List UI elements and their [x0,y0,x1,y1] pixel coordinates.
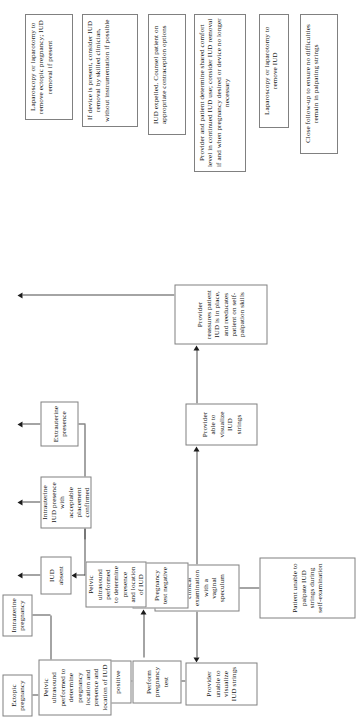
edge-reassures-to-followup [22,294,174,295]
node-label: Laparoscopy or laparotomy to remove ecto… [29,18,69,116]
node-label: Ectopic pregnancy [9,678,26,712]
node-label: IUD expelled. Counsel patient on appropr… [152,18,182,131]
node-label: Extrauterine presence [51,405,68,442]
node-device-present-removal[interactable]: If device is present, consider IUD remov… [82,14,138,127]
node-label: Provider unable to visualize IUD strings [204,666,237,701]
edge-intrauterine-iud-to-shared [22,501,40,502]
node-provider-reassures[interactable]: Provider reassures patient IUD is in pla… [174,284,267,344]
node-pelvic-ultrasound-iud[interactable]: Pelvic ultrasound performed to determine… [85,561,146,607]
node-laparoscopy-remove-iud[interactable]: Laparoscopy or laparotomy to remove IUD [259,14,289,128]
arrowhead-intrauterine-iud-to-shared [17,499,22,505]
node-label: Pelvic ultrasound performed to determine… [86,565,145,603]
node-label: Laparoscopy or laparotomy to remove IUD [263,18,285,124]
arrowhead-reassures-to-followup [17,292,22,298]
node-provider-unable-visualize[interactable]: Provider unable to visualize IUD strings [185,662,257,705]
outcome-band: Laparoscopy or laparotomy to remove ecto… [0,0,364,190]
node-provider-able-visualize[interactable]: Provider able to visualize IUD strings [185,403,257,445]
arrowhead-absent-to-expelled [17,572,22,578]
arrowhead-pregtest-to-negative [140,609,146,614]
node-extrauterine-presence[interactable]: Extrauterine presence [40,401,78,446]
edge-ultrasoundpreg-to-intrauterine-h [50,615,51,663]
arrowhead-able-to-reassures [193,345,199,350]
arrowhead-extrauterine-to-laparoscopy [17,421,22,427]
node-perform-pregnancy-test[interactable]: Perform pregnancy test [132,660,181,703]
node-iud-absent[interactable]: IUD absent [40,556,71,594]
edge-ultrasoundiud-to-absent-v [76,574,85,575]
node-label: If device is present, consider IUD remov… [86,18,134,123]
edge-exam-to-able [196,450,197,564]
node-intrauterine-iud-presence[interactable]: Intrauterine IUD presence with acceptabl… [40,476,91,528]
node-label: Intrauterine IUD presence with acceptabl… [40,480,90,524]
edge-pregtest-to-negative [143,613,144,657]
edge-exam-to-unable [196,611,197,657]
node-laparoscopy-ectopic[interactable]: Laparoscopy or laparotomy to remove ecto… [25,14,73,120]
arrowhead-exam-to-able [193,446,199,451]
node-label: Pregnancy test negative [152,566,169,604]
node-label: Provider able to visualize IUD strings [200,407,242,441]
node-close-follow-up[interactable]: Close follow-up to ensure no difficultie… [300,14,338,154]
node-iud-expelled[interactable]: IUD expelled. Counsel patient on appropr… [148,14,186,135]
node-intrauterine-pregnancy[interactable]: Intrauterine pregnancy [2,594,32,636]
node-label: IUD absent [47,560,64,590]
node-label: Perform pregnancy test [144,664,169,699]
edge-absent-to-expelled [22,574,40,575]
node-label: Patient unable to palpate IUD strings du… [290,561,323,614]
node-shared-comfort-level[interactable]: Provider and patient determine shared co… [194,14,246,172]
node-ectopic-pregnancy[interactable]: Ectopic pregnancy [2,674,32,716]
edge-able-to-reassures [196,349,197,403]
node-pelvic-ultrasound-pregnancy[interactable]: Pelvic ultrasound performed to determine… [38,659,111,715]
arrowhead-exam-to-unable [193,657,199,662]
edge-extrauterine-to-laparoscopy [22,423,40,424]
node-label: Intrauterine pregnancy [9,598,26,632]
node-label: Provider and patient determine shared co… [198,18,242,168]
node-label: Close follow-up to ensure no difficultie… [304,18,334,150]
arrowhead-ultrasoundiud-to-absent [71,572,76,578]
node-label: Pelvic ultrasound performed to determine… [41,663,108,711]
node-patient-unable-palpate[interactable]: Patient unable to palpate IUD strings du… [259,557,355,618]
node-label: Provider reassures patient IUD is in pla… [195,288,245,340]
